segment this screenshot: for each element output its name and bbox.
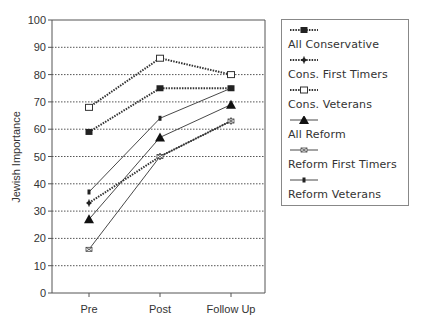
y-axis-ticks: 0102030405060708090100 (28, 14, 52, 299)
x-tick-label: Post (149, 303, 171, 315)
filled-diamond-marker-icon (288, 56, 320, 64)
y-tick-label: 10 (34, 260, 46, 272)
legend-item-reform-veterans: Reform Veterans (288, 176, 381, 202)
y-axis-label: Jewish Importance (10, 111, 22, 203)
legend-label: All Reform (288, 128, 346, 141)
x-square-marker-icon (288, 146, 320, 154)
data-series (84, 55, 236, 251)
legend: All Conservative Cons. First Timers Cons… (281, 19, 409, 206)
legend-label: Cons. Veterans (288, 98, 372, 111)
y-tick-label: 100 (28, 14, 46, 26)
legend-label: All Conservative (288, 38, 379, 51)
legend-item-cons-veterans: Cons. Veterans (288, 86, 372, 112)
filled-triangle-marker-icon (288, 116, 320, 124)
y-tick-label: 0 (40, 287, 46, 299)
filled-square-marker-icon (288, 26, 320, 34)
legend-label: Reform Veterans (288, 188, 381, 201)
y-tick-label: 60 (34, 123, 46, 135)
open-square-marker-icon (288, 86, 320, 94)
series-all-conservative (86, 85, 235, 135)
legend-item-all-reform: All Reform (288, 116, 346, 142)
y-tick-label: 70 (34, 96, 46, 108)
y-tick-label: 20 (34, 232, 46, 244)
dash-marker-icon (288, 176, 320, 184)
legend-item-reform-first-timers: Reform First Timers (288, 146, 397, 172)
y-tick-label: 50 (34, 151, 46, 163)
x-axis-ticks: PrePostFollow Up (80, 293, 255, 315)
x-tick-label: Follow Up (207, 303, 256, 315)
legend-label: Reform First Timers (288, 158, 397, 171)
legend-item-cons-first-timers: Cons. First Timers (288, 56, 388, 82)
legend-label: Cons. First Timers (288, 68, 388, 81)
y-tick-label: 90 (34, 41, 46, 53)
y-tick-label: 80 (34, 69, 46, 81)
x-tick-label: Pre (80, 303, 97, 315)
legend-item-all-conservative: All Conservative (288, 26, 379, 52)
y-tick-label: 40 (34, 178, 46, 190)
y-tick-label: 30 (34, 205, 46, 217)
